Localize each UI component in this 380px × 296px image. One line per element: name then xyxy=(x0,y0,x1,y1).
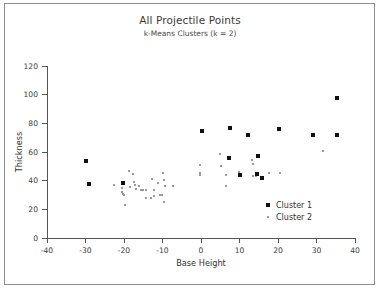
data-point-cluster-2 xyxy=(113,184,115,186)
data-point-cluster-2 xyxy=(161,194,163,196)
x-tick-label: 20 xyxy=(273,246,283,255)
data-point-cluster-2 xyxy=(153,189,155,191)
data-point-cluster-2 xyxy=(252,163,254,165)
legend-marker-1 xyxy=(266,203,270,207)
x-tick-label: -20 xyxy=(118,246,131,255)
data-point-cluster-2 xyxy=(135,188,137,190)
x-tick-label: -30 xyxy=(79,246,92,255)
data-point-cluster-2 xyxy=(164,185,166,187)
y-tick-label: 40 xyxy=(28,176,38,185)
data-point-cluster-2 xyxy=(121,187,123,189)
data-point-cluster-2 xyxy=(225,185,227,187)
data-point-cluster-2 xyxy=(128,170,130,172)
legend-label-2: Cluster 2 xyxy=(276,213,312,222)
data-point-cluster-2 xyxy=(133,181,135,183)
data-point-cluster-2 xyxy=(219,153,221,155)
x-tick-label: 40 xyxy=(350,246,360,255)
x-tick-label: -10 xyxy=(156,246,169,255)
data-point-cluster-1 xyxy=(246,133,250,137)
data-point-cluster-2 xyxy=(151,178,153,180)
data-point-cluster-2 xyxy=(138,185,140,187)
legend-marker-2 xyxy=(267,216,269,218)
data-point-cluster-2 xyxy=(157,182,159,184)
data-point-cluster-1 xyxy=(200,129,204,133)
data-point-cluster-2 xyxy=(162,172,164,174)
data-point-cluster-1 xyxy=(311,133,315,137)
data-point-cluster-2 xyxy=(150,197,152,199)
data-point-cluster-2 xyxy=(142,189,144,191)
data-point-cluster-1 xyxy=(121,181,125,185)
data-point-cluster-2 xyxy=(129,186,131,188)
y-axis-ticks: 020406080100120 xyxy=(24,62,48,243)
y-tick-label: 60 xyxy=(28,148,38,157)
data-point-cluster-2 xyxy=(123,194,125,196)
data-point-cluster-1 xyxy=(335,96,339,100)
y-tick-label: 0 xyxy=(33,234,38,243)
x-tick-label: 0 xyxy=(199,246,204,255)
data-point-cluster-1 xyxy=(228,126,232,130)
data-point-cluster-2 xyxy=(252,175,254,177)
data-point-cluster-2 xyxy=(121,191,123,193)
data-point-cluster-1 xyxy=(84,159,88,163)
x-tick-label: 10 xyxy=(235,246,245,255)
y-tick-label: 20 xyxy=(28,205,38,214)
data-point-cluster-2 xyxy=(225,174,227,176)
data-point-cluster-2 xyxy=(153,195,155,197)
chart-figure: All Projectile Points k-Means Clusters (… xyxy=(0,0,380,296)
data-point-cluster-2 xyxy=(134,184,136,186)
data-point-cluster-2 xyxy=(172,185,174,187)
data-point-cluster-1 xyxy=(260,176,264,180)
data-point-cluster-1 xyxy=(87,182,91,186)
data-point-cluster-2 xyxy=(199,174,201,176)
y-axis-label: Thickness xyxy=(14,132,24,173)
y-tick-label: 100 xyxy=(24,90,39,99)
data-point-cluster-1 xyxy=(238,173,242,177)
data-point-cluster-2 xyxy=(163,201,165,203)
data-point-cluster-2 xyxy=(124,204,126,206)
x-axis-label: Base Height xyxy=(176,258,226,268)
data-point-cluster-2 xyxy=(163,179,165,181)
caption-strip xyxy=(0,288,380,296)
data-point-cluster-2 xyxy=(199,164,201,166)
data-point-cluster-1 xyxy=(227,156,231,160)
data-point-cluster-2 xyxy=(251,159,253,161)
data-point-cluster-2 xyxy=(132,173,134,175)
x-tick-label: 30 xyxy=(312,246,322,255)
y-tick-label: 80 xyxy=(28,119,38,128)
data-point-cluster-2 xyxy=(220,165,222,167)
data-point-cluster-2 xyxy=(238,171,240,173)
series-cluster-2-points xyxy=(113,150,324,207)
data-point-cluster-2 xyxy=(199,172,201,174)
legend-label-1: Cluster 1 xyxy=(276,201,312,210)
data-point-cluster-2 xyxy=(268,172,270,174)
data-point-cluster-2 xyxy=(322,150,324,152)
data-point-cluster-2 xyxy=(140,189,142,191)
data-point-cluster-2 xyxy=(145,189,147,191)
data-point-cluster-1 xyxy=(256,154,260,158)
series-cluster-1-points xyxy=(84,96,339,186)
chart-legend: Cluster 1Cluster 2 xyxy=(266,201,312,222)
x-axis-ticks: -40-30-20-10010203040 xyxy=(41,238,360,255)
y-tick-label: 120 xyxy=(24,62,39,71)
data-point-cluster-1 xyxy=(335,133,339,137)
data-point-cluster-1 xyxy=(277,127,281,131)
data-point-cluster-1 xyxy=(255,172,259,176)
scatter-plot-canvas: 020406080100120 -40-30-20-10010203040 Th… xyxy=(0,0,380,296)
data-point-cluster-2 xyxy=(145,197,147,199)
x-tick-label: -40 xyxy=(41,246,54,255)
data-point-cluster-2 xyxy=(279,172,281,174)
